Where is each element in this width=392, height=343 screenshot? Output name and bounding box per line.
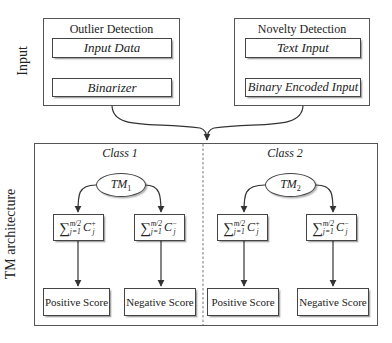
class-2-label: Class 2 [245,146,325,161]
tm-2-label: TM [280,177,297,191]
sum-icon: ∑ [140,220,151,237]
tm-2-node: TM2 [265,173,316,197]
clause-index: j [344,228,349,236]
input-data-box: Input Data [52,38,172,58]
clause-var: C [164,220,172,235]
sum-icon: ∑ [59,220,70,237]
binary-encoded-input-box: Binary Encoded Input [245,78,361,97]
tm-1-label: TM [111,177,128,191]
class-2-negative-score: Negative Score [297,288,369,316]
architecture-section-label: TM architecture [3,179,21,289]
clause-var: C [83,220,91,235]
clause-index: j [172,228,177,236]
binarizer-box: Binarizer [52,78,172,97]
sum-lower-limit: j=1 [151,228,162,236]
tm-1-node: TM1 [96,173,146,197]
class-1-label: Class 1 [80,146,160,161]
clause-var: C [247,220,255,235]
tm-2-subscript: 2 [297,184,301,193]
tm-1-subscript: 1 [127,184,131,193]
sum-lower-limit: j=1 [234,228,245,236]
class-2-positive-clause-sum: ∑ m/2j=1 C+j [217,214,268,241]
class-2-positive-score: Positive Score [207,288,279,316]
tm-diagram: Input TM architecture Outlier Detection … [0,0,392,343]
sum-lower-limit: j=1 [70,228,81,236]
sum-lower-limit: j=1 [323,228,334,236]
clause-index: j [91,228,96,236]
sum-icon: ∑ [312,220,323,237]
text-input-box: Text Input [245,38,361,58]
class-1-negative-score: Negative Score [124,288,196,316]
sum-icon: ∑ [223,220,234,237]
clause-index: j [255,228,260,236]
outlier-detection-title: Outlier Detection [43,22,180,37]
class-1-positive-score: Positive Score [43,288,110,316]
class-2-negative-clause-sum: ∑ m/2j=1 C−j [306,214,357,241]
class-1-negative-clause-sum: ∑ m/2j=1 C−j [134,214,185,241]
input-section-label: Input [15,31,33,91]
novelty-detection-title: Novelty Detection [234,22,370,37]
class-1-positive-clause-sum: ∑ m/2j=1 C+j [53,214,104,241]
clause-var: C [336,220,344,235]
